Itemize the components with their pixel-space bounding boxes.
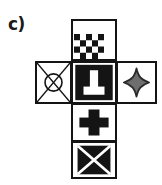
- net-face-bottom: [71, 141, 117, 179]
- figure-container: c): [0, 0, 162, 185]
- net-face-top: [71, 19, 117, 61]
- checkerboard-pattern-icon: [74, 34, 104, 59]
- inverted-t-on-black-icon: [73, 63, 115, 102]
- figure-label: c): [8, 16, 25, 33]
- x-on-black-icon: [73, 143, 115, 177]
- net-face-below: [71, 103, 117, 142]
- circle-with-x-icon: [37, 63, 70, 102]
- plus-sign-icon: [73, 105, 115, 140]
- net-face-right: [116, 61, 157, 104]
- net-face-left: [35, 61, 72, 104]
- four-pointed-star-icon: [118, 63, 155, 102]
- net-face-center: [71, 61, 117, 104]
